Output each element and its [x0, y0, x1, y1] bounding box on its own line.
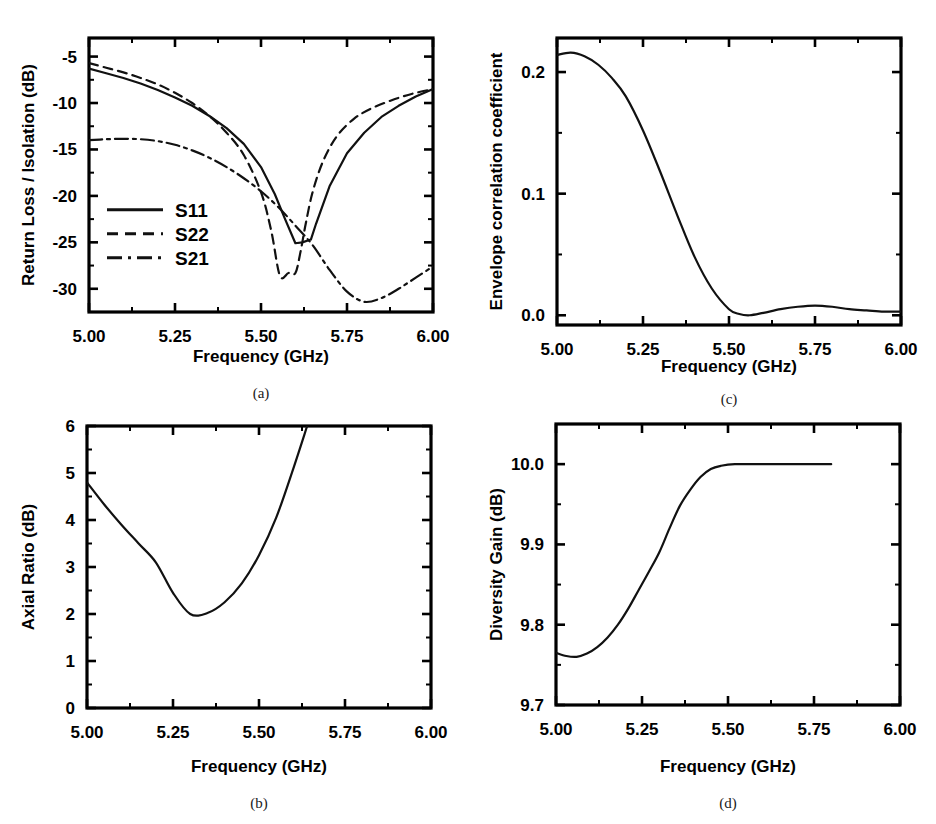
x-axis-label: Frequency (GHz) — [191, 757, 327, 776]
x-tick-label: 6.00 — [414, 723, 447, 742]
plot-frame — [87, 426, 431, 708]
plot-c: 5.005.255.505.756.000.00.10.2Envelope co… — [468, 0, 936, 412]
legend-label-s11: S11 — [175, 200, 208, 221]
x-tick-label: 5.00 — [72, 327, 105, 346]
y-tick-label: 0.2 — [521, 63, 545, 82]
x-tick-label: 5.75 — [330, 327, 363, 346]
x-tick-label: 5.25 — [625, 720, 658, 739]
x-tick-label: 5.00 — [70, 723, 103, 742]
x-tick-label: 5.00 — [539, 720, 572, 739]
y-tick-label: 9.8 — [520, 616, 544, 635]
x-axis-label: Frequency (GHz) — [661, 357, 797, 376]
y-axis-label: Diversity Gain (dB) — [487, 488, 506, 641]
x-tick-label: 5.75 — [328, 723, 361, 742]
panel-caption: (c) — [721, 391, 738, 408]
x-tick-label: 5.25 — [158, 327, 191, 346]
series-axial-ratio — [87, 426, 307, 616]
panel-d: 5.005.255.505.756.009.79.89.910.0Diversi… — [468, 412, 936, 824]
x-tick-label: 5.50 — [242, 723, 275, 742]
y-tick-label: 1 — [66, 652, 75, 671]
y-tick-label: 10.0 — [511, 455, 544, 474]
x-tick-label: 5.25 — [156, 723, 189, 742]
series-s22 — [89, 63, 433, 278]
y-tick-label: 3 — [66, 558, 75, 577]
panel-caption: (d) — [719, 795, 737, 812]
y-tick-label: 0.0 — [521, 306, 545, 325]
y-tick-label: 9.9 — [520, 535, 544, 554]
series-s21 — [89, 139, 433, 302]
x-tick-label: 5.00 — [540, 340, 573, 359]
y-tick-label: 6 — [66, 417, 75, 436]
x-tick-label: 5.25 — [626, 340, 659, 359]
curve-group — [89, 63, 433, 302]
y-axis-label: Return Loss / Isolation (dB) — [19, 64, 38, 286]
y-tick-label: 0.1 — [521, 185, 545, 204]
curve-group — [87, 426, 307, 616]
series-ecc — [557, 53, 901, 316]
y-tick-label: -5 — [62, 48, 77, 67]
plot-frame — [556, 424, 900, 705]
panel-caption: (b) — [250, 795, 268, 812]
plot-a: 5.005.255.505.756.00-5-10-15-20-25-30Ret… — [0, 0, 468, 412]
y-tick-label: 9.7 — [520, 696, 544, 715]
curve-group — [556, 464, 831, 657]
panel-a: 5.005.255.505.756.00-5-10-15-20-25-30Ret… — [0, 0, 468, 412]
plot-d: 5.005.255.505.756.009.79.89.910.0Diversi… — [468, 412, 936, 824]
y-axis-label: Envelope correlation coefficient — [487, 52, 506, 310]
y-tick-label: -15 — [52, 140, 77, 159]
x-axis-label: Frequency (GHz) — [660, 757, 796, 776]
curve-group — [557, 53, 901, 316]
x-tick-label: 5.50 — [711, 720, 744, 739]
figure-root: 5.005.255.505.756.00-5-10-15-20-25-30Ret… — [0, 0, 936, 824]
series-s11 — [89, 69, 433, 244]
y-axis-label: Axial Ratio (dB) — [19, 504, 38, 631]
y-tick-label: -20 — [52, 187, 77, 206]
x-tick-label: 6.00 — [884, 340, 917, 359]
y-tick-label: 0 — [66, 699, 75, 718]
x-tick-label: 5.75 — [798, 340, 831, 359]
x-tick-label: 5.50 — [244, 327, 277, 346]
y-tick-label: -30 — [52, 280, 77, 299]
panel-caption: (a) — [253, 385, 270, 402]
y-tick-label: 4 — [66, 511, 76, 530]
panel-b: 5.005.255.505.756.000123456Axial Ratio (… — [0, 412, 468, 824]
x-tick-label: 6.00 — [416, 327, 449, 346]
plot-frame — [557, 38, 901, 325]
legend-label-s22: S22 — [175, 224, 209, 245]
x-tick-label: 6.00 — [883, 720, 916, 739]
series-diversity-gain — [556, 464, 831, 657]
y-tick-label: 5 — [66, 464, 75, 483]
plot-b: 5.005.255.505.756.000123456Axial Ratio (… — [0, 412, 468, 824]
y-tick-label: -25 — [52, 233, 77, 252]
y-tick-label: 2 — [66, 605, 75, 624]
y-tick-label: -10 — [52, 94, 77, 113]
x-tick-label: 5.75 — [797, 720, 830, 739]
x-axis-label: Frequency (GHz) — [193, 347, 329, 366]
legend-label-s21: S21 — [175, 248, 209, 269]
panel-c: 5.005.255.505.756.000.00.10.2Envelope co… — [468, 0, 936, 412]
